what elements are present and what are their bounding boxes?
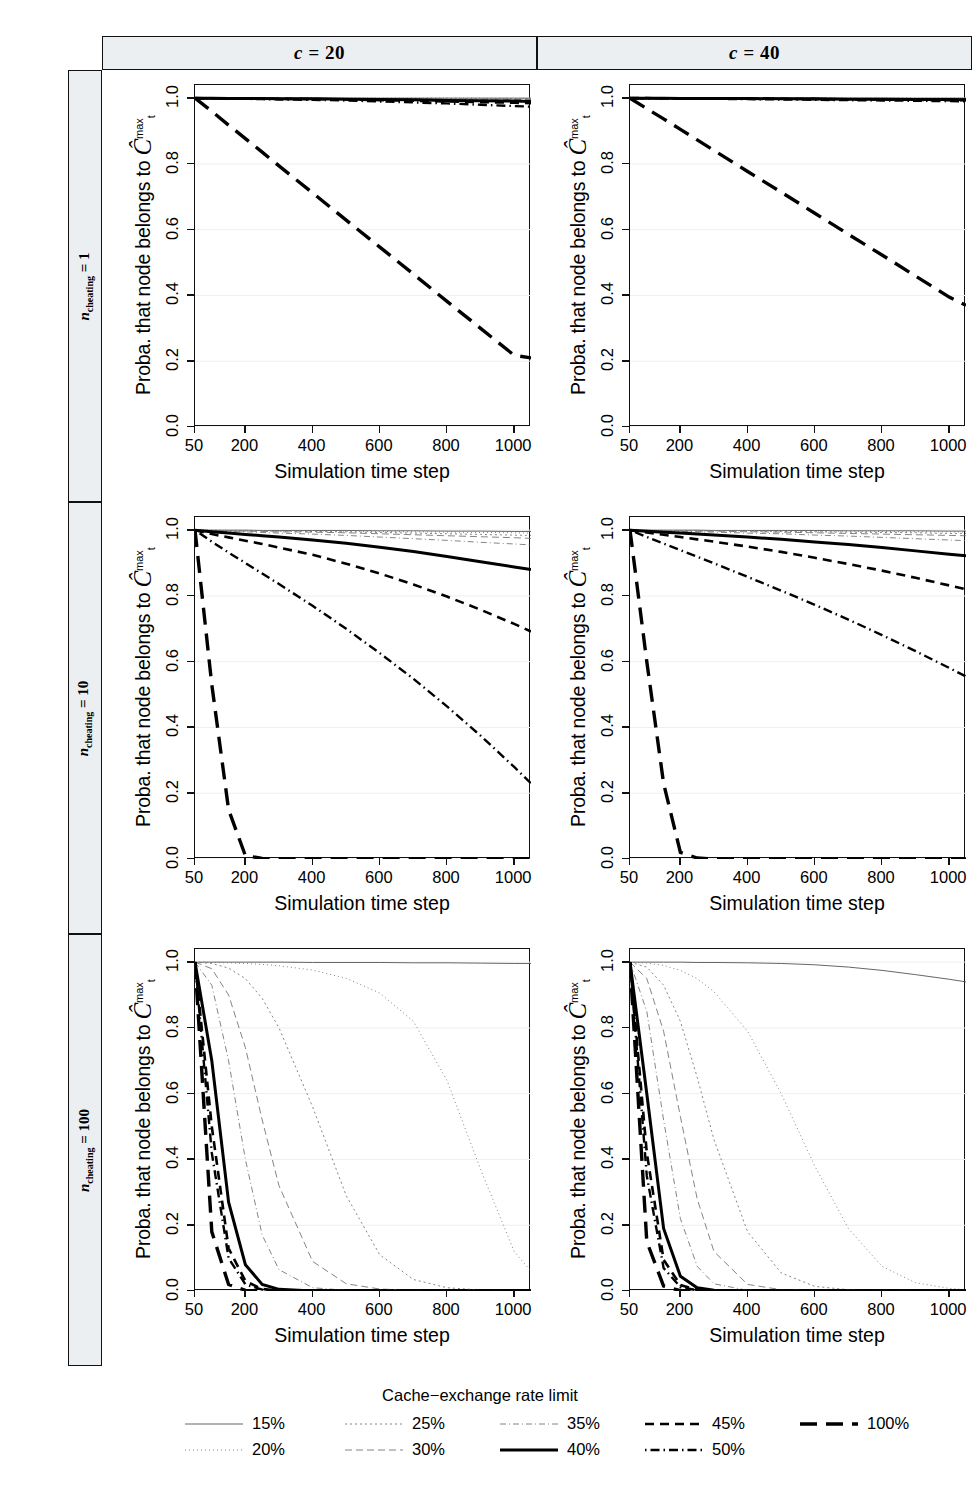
row-strip-n10: ncheating = 10 bbox=[68, 502, 102, 934]
x-tick-label: 400 bbox=[717, 436, 777, 455]
y-tick-label: 1.0 bbox=[598, 940, 617, 982]
x-tick-label: 1000 bbox=[483, 1300, 543, 1319]
y-tick-label: 0.6 bbox=[598, 1071, 617, 1113]
row-strip-label: ncheating = 10 bbox=[76, 680, 95, 756]
y-tick-label: 0.4 bbox=[598, 705, 617, 747]
x-tick-label: 1000 bbox=[918, 1300, 976, 1319]
y-tick-mark bbox=[187, 1093, 194, 1094]
panel-canvas bbox=[630, 517, 966, 859]
y-tick-mark bbox=[187, 661, 194, 662]
legend-label: 40% bbox=[567, 1440, 600, 1459]
x-tick-label: 400 bbox=[282, 436, 342, 455]
x-tick-label: 800 bbox=[851, 436, 911, 455]
x-tick-label: 800 bbox=[851, 1300, 911, 1319]
y-axis-label: Proba. that node belongs to Ĉmaxt bbox=[563, 84, 592, 426]
x-tick-mark bbox=[881, 1290, 882, 1297]
x-tick-label: 200 bbox=[649, 868, 709, 887]
row-strip-label: ncheating = 100 bbox=[76, 1108, 95, 1191]
y-tick-mark bbox=[187, 360, 194, 361]
x-tick-mark bbox=[446, 426, 447, 433]
legend-label: 35% bbox=[567, 1414, 600, 1433]
x-tick-mark bbox=[747, 426, 748, 433]
legend-label: 45% bbox=[712, 1414, 745, 1433]
y-tick-mark bbox=[187, 726, 194, 727]
y-tick-mark bbox=[622, 229, 629, 230]
x-tick-mark bbox=[814, 426, 815, 433]
x-tick-label: 200 bbox=[214, 868, 274, 887]
legend-title: Cache−exchange rate limit bbox=[0, 1386, 960, 1405]
legend-item-40pct: 40% bbox=[500, 1440, 600, 1459]
x-tick-label: 600 bbox=[349, 868, 409, 887]
column-strip-label: c = 20 bbox=[294, 42, 345, 64]
legend-item-30pct: 30% bbox=[345, 1440, 445, 1459]
y-tick-mark bbox=[622, 529, 629, 530]
series-line-45pct bbox=[195, 962, 531, 1291]
series-line-40pct bbox=[630, 962, 966, 1291]
series-line-25pct bbox=[630, 962, 966, 1291]
column-strip-label: c = 40 bbox=[729, 42, 780, 64]
series-line-45pct bbox=[630, 962, 966, 1291]
x-tick-mark bbox=[312, 858, 313, 865]
y-tick-label: 0.2 bbox=[598, 339, 617, 381]
series-line-15pct bbox=[630, 962, 966, 982]
y-tick-label: 1.0 bbox=[598, 76, 617, 118]
x-tick-label: 800 bbox=[416, 436, 476, 455]
x-tick-mark bbox=[629, 426, 630, 433]
series-line-35pct bbox=[195, 962, 531, 1291]
y-tick-mark bbox=[187, 792, 194, 793]
panel-canvas bbox=[630, 949, 966, 1291]
column-strip-c20: c = 20 bbox=[102, 36, 537, 70]
y-tick-mark bbox=[187, 858, 194, 859]
y-tick-mark bbox=[187, 1027, 194, 1028]
series-line-25pct bbox=[195, 962, 531, 1291]
legend-key-line bbox=[500, 1443, 558, 1457]
y-tick-label: 0.4 bbox=[163, 1137, 182, 1179]
legend: Cache−exchange rate limit 15%20%25%30%35… bbox=[0, 1386, 960, 1466]
legend-item-20pct: 20% bbox=[185, 1440, 285, 1459]
x-tick-label: 1000 bbox=[918, 868, 976, 887]
legend-label: 50% bbox=[712, 1440, 745, 1459]
y-tick-mark bbox=[622, 792, 629, 793]
x-tick-mark bbox=[747, 858, 748, 865]
x-tick-mark bbox=[446, 858, 447, 865]
series-line-30pct bbox=[630, 962, 966, 1291]
x-tick-label: 400 bbox=[282, 868, 342, 887]
x-axis-label: Simulation time step bbox=[194, 1324, 530, 1347]
x-tick-mark bbox=[881, 426, 882, 433]
x-tick-mark bbox=[679, 426, 680, 433]
row-strip-n100: ncheating = 100 bbox=[68, 934, 102, 1366]
y-tick-label: 0.6 bbox=[163, 639, 182, 681]
panel-canvas bbox=[195, 949, 531, 1291]
series-line-100pct bbox=[195, 530, 531, 859]
y-tick-label: 1.0 bbox=[163, 508, 182, 550]
x-tick-label: 400 bbox=[282, 1300, 342, 1319]
y-tick-mark bbox=[622, 1290, 629, 1291]
legend-label: 20% bbox=[252, 1440, 285, 1459]
plot-panel-n10-c40 bbox=[629, 516, 965, 858]
x-tick-mark bbox=[948, 426, 949, 433]
x-tick-label: 600 bbox=[349, 436, 409, 455]
y-tick-label: 0.6 bbox=[598, 639, 617, 681]
plot-panel-n100-c40 bbox=[629, 948, 965, 1290]
y-axis-label: Proba. that node belongs to Ĉmaxt bbox=[563, 948, 592, 1290]
x-tick-label: 600 bbox=[349, 1300, 409, 1319]
legend-label: 30% bbox=[412, 1440, 445, 1459]
y-tick-mark bbox=[187, 1290, 194, 1291]
y-tick-mark bbox=[622, 1027, 629, 1028]
x-tick-mark bbox=[446, 1290, 447, 1297]
row-strip-n1: ncheating = 1 bbox=[68, 70, 102, 502]
x-tick-mark bbox=[312, 426, 313, 433]
y-tick-label: 0.8 bbox=[163, 141, 182, 183]
y-tick-label: 0.2 bbox=[163, 339, 182, 381]
series-line-100pct bbox=[195, 98, 531, 358]
legend-item-45pct: 45% bbox=[645, 1414, 745, 1433]
x-tick-mark bbox=[312, 1290, 313, 1297]
y-tick-mark bbox=[187, 229, 194, 230]
y-tick-label: 0.8 bbox=[598, 141, 617, 183]
x-tick-mark bbox=[513, 858, 514, 865]
y-tick-mark bbox=[187, 961, 194, 962]
series-line-100pct bbox=[630, 962, 966, 1291]
legend-key-line bbox=[345, 1443, 403, 1457]
x-tick-mark bbox=[379, 426, 380, 433]
